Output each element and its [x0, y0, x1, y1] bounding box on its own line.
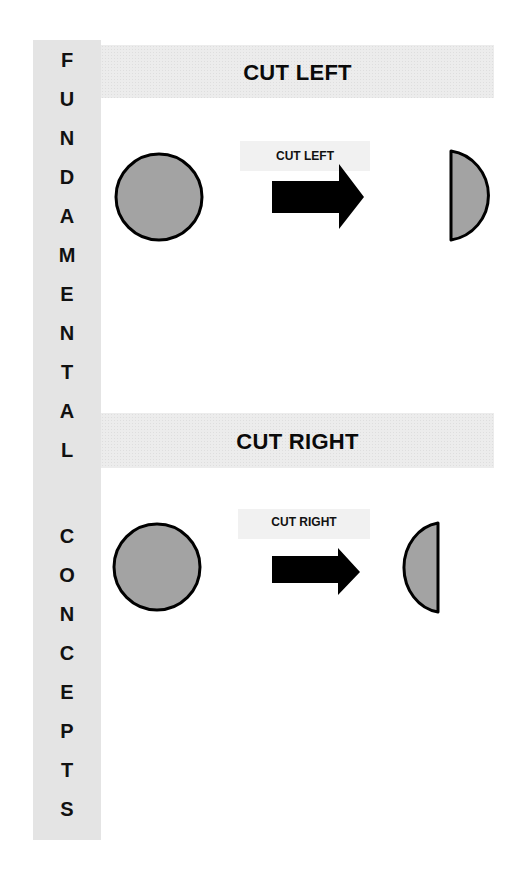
right-arrow-icon: [272, 164, 364, 229]
right-arrow-icon: [272, 548, 360, 595]
full-circle-shape: [116, 154, 202, 240]
half-circle-left-cut: [451, 151, 488, 240]
full-circle-shape: [114, 524, 200, 610]
diagram-shapes: [0, 0, 524, 883]
half-circle-right-cut: [404, 523, 438, 612]
